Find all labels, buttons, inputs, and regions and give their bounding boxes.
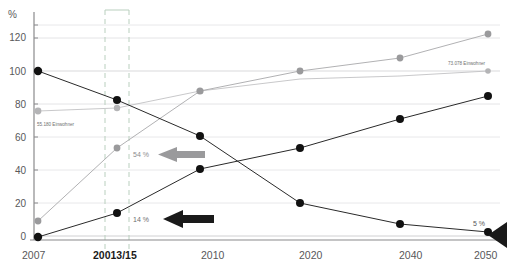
data-point: [34, 67, 42, 75]
annotation-pct-14: 14 %: [133, 216, 149, 223]
annotation-pct-5: 5 %: [473, 220, 485, 227]
arrow-54: [158, 147, 205, 162]
data-point: [196, 165, 204, 173]
x-tick-2007: 2007: [22, 249, 46, 261]
data-point: [296, 199, 304, 207]
annotation-einwohner-end: 73.078 Einwohner: [448, 61, 486, 66]
y-tick-120: 120: [9, 32, 26, 43]
y-tick-100: 100: [9, 66, 26, 77]
data-point: [396, 115, 404, 123]
series-black-rising: [34, 92, 492, 241]
data-point: [113, 209, 121, 217]
y-tick-60: 60: [15, 132, 27, 143]
arrow-14: [163, 210, 214, 228]
data-point: [485, 68, 491, 74]
y-tick-0: 0: [20, 231, 26, 242]
x-tick-2013-15: 20013/15: [93, 249, 137, 261]
data-point: [297, 68, 304, 75]
data-point: [484, 92, 492, 100]
data-point: [35, 108, 42, 115]
data-point: [35, 218, 42, 225]
arrow-5: [488, 222, 507, 248]
y-tick-80: 80: [15, 99, 27, 110]
data-point: [196, 132, 204, 140]
x-tick-2010: 2010: [201, 249, 225, 261]
data-point: [397, 55, 404, 62]
chart-svg: % 120 100 80 60 40 20 0: [0, 0, 507, 265]
y-tick-40: 40: [15, 165, 27, 176]
annotation-pct-54: 54 %: [133, 151, 149, 158]
y-axis-label: %: [8, 9, 17, 20]
y-tick-20: 20: [15, 198, 27, 209]
series-grey-rising-low: [35, 31, 492, 225]
population-projection-chart: % 120 100 80 60 40 20 0: [0, 0, 507, 265]
data-point: [485, 31, 492, 38]
x-tick-2040: 2040: [399, 249, 423, 261]
data-point: [113, 96, 121, 104]
x-tick-2050: 2050: [474, 249, 498, 261]
data-point: [396, 220, 404, 228]
annotation-einwohner-start: 55.180 Einwohner: [37, 122, 75, 127]
data-point: [114, 145, 121, 152]
data-point: [296, 144, 304, 152]
data-point: [196, 87, 203, 94]
x-tick-2020: 2020: [299, 249, 323, 261]
series-black-falling: [34, 67, 492, 236]
data-point: [34, 233, 42, 241]
data-point: [114, 105, 120, 111]
series-grey-flat: [35, 68, 491, 114]
gridlines: [34, 25, 500, 236]
